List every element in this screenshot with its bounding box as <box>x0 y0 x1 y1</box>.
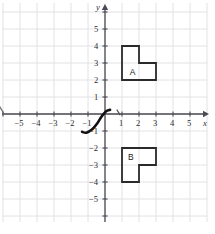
curve-left-edge-curve-fragment <box>0 106 4 113</box>
y-axis-label: y <box>96 3 100 12</box>
x-tick-label-2: 2 <box>136 119 140 128</box>
x-tick-label--3: −3 <box>49 119 58 128</box>
shape-label-B: B <box>128 153 134 162</box>
y-tick-label--3: −3 <box>89 161 98 170</box>
y-tick-label--4: −4 <box>89 178 98 187</box>
y-tick-label-5: 5 <box>94 25 98 34</box>
y-tick-label-3: 3 <box>94 59 98 68</box>
y-tick-label-4: 4 <box>94 42 98 51</box>
shape-label-A: A <box>130 68 136 77</box>
x-tick-label-5: 5 <box>187 119 191 128</box>
x-axis-label: x <box>203 119 207 128</box>
x-tick-label--4: −4 <box>32 119 41 128</box>
x-tick-label--2: −2 <box>66 119 75 128</box>
x-tick-label-4: 4 <box>170 119 174 128</box>
y-tick-label--1: −1 <box>89 127 98 136</box>
y-tick-label--2: −2 <box>89 144 98 153</box>
y-tick-label-2: 2 <box>94 76 98 85</box>
x-tick-label-1: 1 <box>119 119 123 128</box>
x-tick-label-3: 3 <box>153 119 157 128</box>
coordinate-plane-figure: −5−4−3−2−11234554321−1−2−3−4−5xyAB <box>0 0 215 234</box>
y-tick-label--5: −5 <box>89 195 98 204</box>
curves-layer <box>0 0 215 234</box>
y-tick-label-1: 1 <box>94 93 98 102</box>
x-tick-label--5: −5 <box>15 119 24 128</box>
